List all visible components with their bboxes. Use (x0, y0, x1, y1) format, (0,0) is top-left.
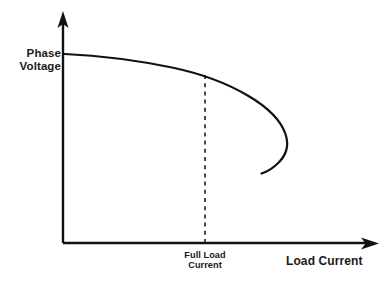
full-load-current-label-line2: Current (188, 260, 222, 270)
full-load-current-label: Full LoadCurrent (170, 250, 240, 271)
y-axis-label-line1: Phase (27, 47, 61, 59)
chart-canvas (0, 0, 388, 287)
phase-voltage-curve (65, 54, 288, 174)
y-axis-label-line2: Voltage (20, 60, 61, 72)
full-load-current-label-line1: Full Load (184, 250, 225, 260)
y-axis-label: PhaseVoltage (0, 47, 61, 73)
chart-figure: PhaseVoltage Full LoadCurrent Load Curre… (0, 0, 388, 287)
x-axis-label: Load Current (286, 255, 363, 268)
